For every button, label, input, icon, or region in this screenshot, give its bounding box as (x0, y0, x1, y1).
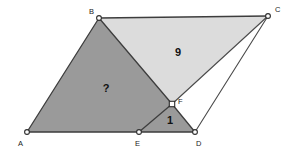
vertex-label-E: E (135, 139, 140, 148)
vertex-label-C: C (275, 5, 281, 14)
region-label-nine: 9 (175, 46, 181, 58)
vertex-label-F: F (178, 97, 183, 106)
geometry-canvas: ? 9 1 A B C D E F (0, 0, 294, 155)
geometry-figure: ? 9 1 A B C D E F (0, 0, 294, 155)
vertex-label-D: D (196, 139, 202, 148)
vertex-point-E (137, 130, 142, 135)
vertex-point-D (193, 130, 198, 135)
region-label-unknown: ? (103, 82, 110, 94)
vertex-label-A: A (18, 139, 23, 148)
region-label-one: 1 (167, 114, 173, 126)
vertex-point-B (97, 16, 102, 21)
vertex-point-A (25, 130, 30, 135)
vertex-point-C (266, 14, 271, 19)
vertex-point-F (169, 101, 174, 106)
vertex-label-B: B (89, 7, 94, 16)
